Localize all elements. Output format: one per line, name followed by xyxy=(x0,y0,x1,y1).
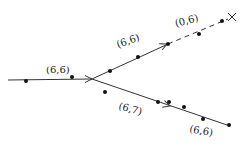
vertex-dot xyxy=(220,19,224,23)
diagram-arrows xyxy=(85,41,171,110)
label-upper: (6,6) xyxy=(115,31,141,49)
vertex-dot xyxy=(166,42,170,46)
vertex-dot xyxy=(103,90,107,94)
label-lower-end: (6,6) xyxy=(189,123,214,138)
label-dashed: (0,6) xyxy=(174,12,200,29)
vertex-dot xyxy=(108,69,112,73)
branching-diagram: (6,6)(6,6)(0,6)(6,7)(6,6) xyxy=(0,0,252,147)
vertex-dot xyxy=(70,75,74,79)
segment-upper-solid xyxy=(92,44,168,79)
vertex-dot xyxy=(136,55,140,59)
vertex-dot xyxy=(167,100,171,104)
diagram-end-marks xyxy=(228,13,236,21)
diagram-labels: (6,6)(6,6)(0,6)(6,7)(6,6) xyxy=(46,12,214,138)
label-lower-mid: (6,7) xyxy=(117,100,143,117)
cross-end-icon xyxy=(228,13,236,21)
vertex-dot xyxy=(227,123,231,127)
vertex-dot xyxy=(156,100,160,104)
segment-incoming xyxy=(8,79,92,80)
vertex-dot xyxy=(197,32,201,36)
vertex-dot xyxy=(182,105,186,109)
label-incoming: (6,6) xyxy=(46,64,70,75)
vertex-dot xyxy=(24,79,28,83)
vertex-dot xyxy=(201,117,205,121)
segment-lower xyxy=(92,79,230,126)
